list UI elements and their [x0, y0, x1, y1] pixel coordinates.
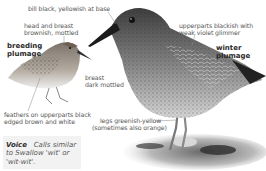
- voice-text-line1: Calls similar: [34, 141, 76, 149]
- head-breast-annotation-line2: brownish, mottled: [24, 29, 78, 36]
- voice-description: Voice Calls similar to Swallow 'wit' or …: [6, 141, 80, 166]
- feathers-annotation-line2: edged brown and white: [4, 118, 75, 125]
- breeding-plumage-label-line2: plumage: [7, 50, 41, 58]
- voice-heading: Voice: [6, 141, 27, 149]
- breast-annotation-line2: dark mottled: [85, 81, 124, 88]
- bill-annotation: bill black, yellowish at base: [28, 5, 110, 12]
- legs-annotation-line2: (sometimes also orange): [92, 124, 167, 131]
- winter-plumage-label-line2: plumage: [216, 52, 250, 60]
- winter-plumage-label-line1: winter: [216, 44, 241, 52]
- field-guide-page: bill black, yellowish at base head and b…: [0, 0, 266, 171]
- breeding-plumage-label-line1: breeding: [7, 42, 42, 50]
- upperparts-annotation-line2: weak violet glimmer: [179, 29, 240, 36]
- ground-stones: [123, 134, 266, 170]
- voice-text-line2: to Swallow 'wit' or: [6, 149, 80, 157]
- voice-text-line3: 'wit-wit'.: [6, 158, 80, 166]
